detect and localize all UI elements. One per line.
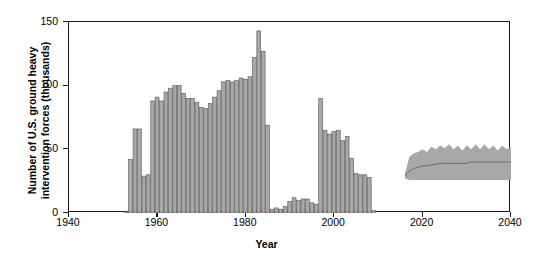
x-tick-label-2000: 2000 — [308, 216, 358, 228]
bar — [336, 130, 340, 213]
bar — [350, 158, 354, 213]
bar — [367, 177, 371, 213]
bar — [359, 175, 363, 213]
bar — [252, 58, 256, 213]
bar — [213, 97, 217, 213]
bar — [283, 207, 287, 213]
chart-figure: Number of U.S. ground heavy intervention… — [0, 0, 533, 260]
chart-canvas — [69, 22, 511, 213]
bar — [332, 132, 336, 213]
bar — [270, 209, 274, 213]
bar — [168, 88, 172, 213]
bar — [292, 198, 296, 213]
bar — [221, 82, 225, 213]
y-tick-label-150: 150 — [22, 15, 58, 27]
bar — [305, 199, 309, 213]
bar — [151, 101, 155, 213]
bar — [363, 175, 367, 213]
bar — [217, 91, 221, 213]
bar — [208, 103, 212, 213]
bar — [248, 77, 252, 213]
bar — [191, 98, 195, 213]
bar — [138, 129, 142, 213]
x-axis-title: Year — [0, 238, 533, 250]
bar — [142, 176, 146, 213]
bar — [266, 125, 270, 213]
bar — [297, 200, 301, 213]
bar — [261, 51, 265, 213]
bar-series — [124, 31, 375, 213]
bar — [301, 199, 305, 213]
bar — [164, 92, 168, 213]
bar — [328, 134, 332, 213]
bar — [230, 82, 234, 213]
bar — [275, 208, 279, 213]
bar — [314, 204, 318, 213]
bar — [226, 81, 230, 213]
plot-area — [68, 21, 510, 212]
bar — [372, 210, 376, 213]
bar — [195, 102, 199, 213]
bar — [146, 175, 150, 213]
bar — [124, 212, 128, 213]
bar — [319, 98, 323, 213]
bar — [323, 130, 327, 213]
bar — [133, 129, 137, 213]
bar — [239, 78, 243, 213]
y-tick-label-100: 100 — [22, 78, 58, 90]
bar — [341, 140, 345, 213]
x-tick-label-2020: 2020 — [397, 216, 447, 228]
bar — [235, 81, 239, 213]
bar — [160, 101, 164, 213]
x-tick-label-1980: 1980 — [220, 216, 270, 228]
bar — [199, 107, 203, 213]
x-tick-label-1940: 1940 — [43, 216, 93, 228]
x-tick-label-1960: 1960 — [131, 216, 181, 228]
bar — [182, 93, 186, 213]
bar — [204, 109, 208, 213]
bar — [257, 31, 261, 213]
bar — [279, 209, 283, 213]
bar — [177, 86, 181, 213]
bar — [129, 160, 133, 213]
bar — [310, 203, 314, 213]
bar — [186, 98, 190, 213]
y-tick-label-50: 50 — [22, 142, 58, 154]
bar — [155, 97, 159, 213]
bar — [354, 174, 358, 213]
bar — [345, 137, 349, 213]
x-tick-label-2040: 2040 — [485, 216, 533, 228]
bar — [244, 79, 248, 213]
bar — [173, 86, 177, 213]
bar — [288, 202, 292, 213]
